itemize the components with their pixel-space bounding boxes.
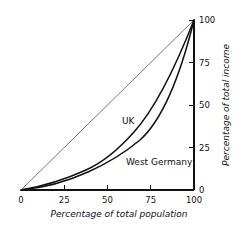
y-tick-label-100: 100 — [199, 16, 215, 25]
x-tick-label-50: 50 — [102, 196, 113, 205]
x-axis-ticks — [64, 185, 151, 190]
x-tick-label-100: 100 — [186, 196, 202, 205]
series-label-uk: UK — [122, 117, 135, 126]
plot-canvas — [0, 0, 239, 234]
y-tick-label-50: 50 — [199, 101, 210, 110]
y-axis-title: Percentage of total income — [222, 44, 231, 166]
y-tick-label-0: 0 — [199, 186, 204, 195]
y-tick-label-75: 75 — [199, 58, 210, 67]
y-tick-label-25: 25 — [199, 143, 210, 152]
x-tick-label-0: 0 — [18, 196, 23, 205]
x-tick-label-75: 75 — [145, 196, 156, 205]
lorenz-curve-figure: 0 25 50 75 100 0 25 50 75 100 Percentage… — [0, 0, 239, 234]
x-axis-title: Percentage of total population — [51, 210, 188, 219]
x-tick-label-25: 25 — [59, 196, 70, 205]
series-label-west-germany: West Germany — [126, 158, 192, 167]
